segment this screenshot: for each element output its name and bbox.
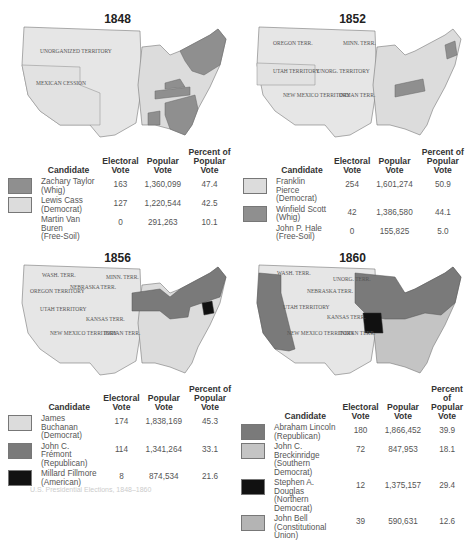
table-row: Zachary Taylor(Whig) 163 1,360,099 47.4 bbox=[8, 177, 235, 196]
table-row: Franklin Pierce(Democrat) 254 1,601,274 … bbox=[243, 177, 470, 205]
col-electoral: ElectoralVote bbox=[99, 148, 141, 177]
territory-label: UTAH TERRITORY bbox=[283, 304, 330, 310]
territory-label: MINN. TERR. bbox=[343, 40, 376, 46]
results-table-1860: Candidate ElectoralVote PopularVote Perc… bbox=[241, 385, 470, 542]
territory-label: WASH. TERR. bbox=[277, 270, 311, 276]
us-map-1852: OREGON TERR. MINN. TERR. UTAH TERRITORY … bbox=[255, 25, 465, 140]
us-map-1848: UNORGANIZED TERRITORY MEXICAN CESSION bbox=[20, 25, 230, 140]
col-candidate: Candidate bbox=[38, 385, 100, 414]
col-candidate: Candidate bbox=[271, 385, 339, 423]
table-row: John Bell(Constitutional Union) 39 590,6… bbox=[241, 514, 470, 542]
legend-swatch-republican bbox=[8, 443, 32, 459]
legend-swatch-whig bbox=[243, 206, 267, 222]
territory-label: INDIAN TERR. bbox=[339, 92, 376, 98]
table-row: Stephen A. Douglas(Northern Democrat) 12… bbox=[241, 478, 470, 514]
territory-label: INDIAN TERR. bbox=[339, 330, 376, 336]
territory-label: KANSAS TERR. bbox=[86, 316, 125, 322]
col-popular: PopularVote bbox=[142, 148, 184, 177]
col-candidate: Candidate bbox=[273, 148, 331, 177]
results-table-1848: Candidate ElectoralVote PopularVote Perc… bbox=[8, 148, 235, 243]
legend-swatch-whig bbox=[8, 178, 32, 194]
legend-swatch-democrat bbox=[8, 197, 32, 213]
results-table-1856: Candidate ElectoralVote PopularVote Perc… bbox=[8, 385, 235, 488]
territory-label: MINN. TERR. bbox=[106, 274, 139, 280]
table-row: James Buchanan(Democrat) 174 1,838,169 4… bbox=[8, 414, 235, 442]
panel-1848: 1848 UNORGANIZED TERRITORY MEXICAN CESSI… bbox=[0, 0, 235, 240]
legend-swatch-northern-democrat bbox=[241, 479, 265, 495]
table-row: Abraham Lincoln(Republican) 180 1,866,45… bbox=[241, 423, 470, 442]
col-popular: PopularVote bbox=[143, 385, 185, 414]
table-row: John C. Frémont(Republican) 114 1,341,26… bbox=[8, 442, 235, 470]
table-row: Martin Van Buren(Free-Soil) 0 291,263 10… bbox=[8, 215, 235, 243]
figure-caption: U.S. Presidential Elections, 1848–1860 bbox=[30, 486, 151, 493]
legend-swatch-constitutional-union bbox=[241, 515, 265, 531]
territory-label: OREGON TERR. bbox=[273, 40, 313, 46]
legend-swatch-democrat bbox=[8, 415, 32, 431]
panel-1852: 1852 OREGON TERR. MINN. TERR. UTAH TERRI… bbox=[235, 0, 470, 240]
results-table-1852: Candidate ElectoralVote PopularVote Perc… bbox=[243, 148, 470, 243]
territory-label: MEXICAN CESSION bbox=[36, 80, 86, 86]
col-popular: PopularVote bbox=[373, 148, 415, 177]
year-title: 1852 bbox=[235, 12, 470, 26]
col-percent: Percent ofPopular Vote bbox=[424, 385, 470, 423]
col-percent: Percent ofPopular Vote bbox=[416, 148, 470, 177]
us-map-1860: WASH. TERR. UNORG. TERR. NEBRASKA TERR. … bbox=[255, 263, 465, 378]
col-popular: PopularVote bbox=[382, 385, 424, 423]
year-title: 1848 bbox=[0, 12, 235, 26]
panel-1860: 1860 WASH. TERR. UNORG. TERR. NEBRASKA T… bbox=[235, 245, 470, 485]
territory-label: UNORG. TERRITORY bbox=[317, 68, 370, 74]
col-electoral: ElectoralVote bbox=[339, 385, 381, 423]
legend-swatch-southern-democrat bbox=[241, 443, 265, 459]
territory-label: UTAH TERRITORY bbox=[273, 68, 320, 74]
table-row: Lewis Cass(Democrat) 127 1,220,544 42.5 bbox=[8, 196, 235, 215]
territory-label: INDIAN TERR. bbox=[104, 330, 141, 336]
col-candidate: Candidate bbox=[38, 148, 99, 177]
table-row: Winfield Scott(Whig) 42 1,386,580 44.1 bbox=[243, 205, 470, 224]
territory-label: NEBRASKA TERR. bbox=[70, 284, 117, 290]
territory-label: KANSAS TERR. bbox=[327, 314, 366, 320]
col-percent: Percent ofPopular Vote bbox=[184, 148, 235, 177]
table-row: John C. Breckinridge(Southern Democrat) … bbox=[241, 442, 470, 478]
legend-swatch-american bbox=[8, 470, 32, 486]
col-percent: Percent ofPopular Vote bbox=[185, 385, 235, 414]
col-electoral: ElectoralVote bbox=[100, 385, 142, 414]
us-map-1856: WASH. TERR. OREGON TERRITORY MINN. TERR.… bbox=[20, 263, 230, 378]
territory-label: UNORGANIZED TERRITORY bbox=[40, 48, 112, 54]
territory-label: NEBRASKA TERR. bbox=[307, 288, 354, 294]
panel-1856: 1856 WASH. TERR. OREGON TERRITORY MINN. … bbox=[0, 245, 235, 485]
legend-swatch-republican bbox=[241, 424, 265, 440]
legend-swatch-democrat bbox=[243, 178, 267, 194]
table-row: John P. Hale(Free-Soil) 0 155,825 5.0 bbox=[243, 224, 470, 243]
territory-label: UNORG. TERR. bbox=[333, 276, 371, 282]
territory-label: WASH. TERR. bbox=[42, 272, 76, 278]
col-electoral: ElectoralVote bbox=[331, 148, 373, 177]
territory-label: UTAH TERRITORY bbox=[40, 306, 87, 312]
